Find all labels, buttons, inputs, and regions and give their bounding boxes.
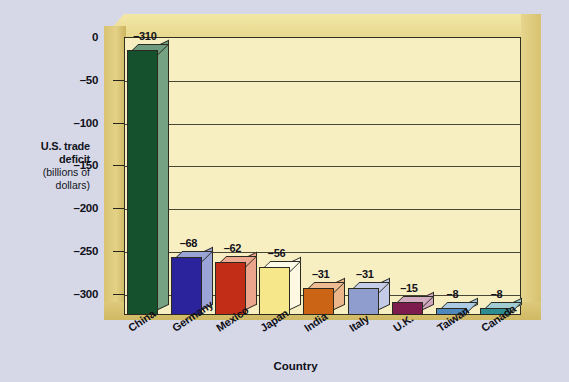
- bar-value-label: –31: [356, 268, 373, 280]
- y-axis-tickmark: [113, 80, 124, 81]
- bar-front-face: [259, 267, 290, 315]
- bar-value-label: –31: [312, 268, 329, 280]
- trade-deficit-bar-chart: U.S. trade deficit (billions of dollars)…: [0, 0, 569, 382]
- bar-value-label: –56: [268, 247, 285, 259]
- bar-front-face: [127, 50, 158, 315]
- bar-front-face: [348, 288, 379, 315]
- bar-value-label: –62: [224, 242, 241, 254]
- y-axis-tick-label: –50: [38, 74, 98, 86]
- y-axis-tickmark: [113, 123, 124, 124]
- y-axis-tick-label: –300: [38, 288, 98, 300]
- bar-value-label: –310: [133, 30, 156, 42]
- y-axis-tickmark: [113, 208, 124, 209]
- y-axis-tickmark: [113, 165, 124, 166]
- bar-side-face: [158, 39, 169, 310]
- bar-china: –310: [127, 50, 158, 315]
- bar-value-label: –8: [447, 288, 459, 300]
- bar-value-label: –15: [400, 282, 417, 294]
- bar-value-label: –8: [491, 288, 503, 300]
- bar-japan: –56: [259, 267, 290, 315]
- x-axis-title-text: Country: [273, 360, 317, 372]
- y-axis-tick-label: –250: [38, 245, 98, 257]
- x-axis-title: Country: [0, 360, 569, 372]
- y-axis-tick-label: 0: [38, 31, 98, 43]
- bar-value-label: –68: [180, 237, 197, 249]
- y-axis-tickmark: [113, 251, 124, 252]
- y-axis-tick-label: –150: [38, 159, 98, 171]
- x-axis-tick-labels: ChinaGermanyMexicoJapanIndiaItalyU.K.Tai…: [104, 318, 569, 382]
- y-axis-tickmark: [113, 294, 124, 295]
- y-axis-tick-labels: –300–250–200–150–100–500: [38, 0, 98, 382]
- y-axis-tick-label: –100: [38, 117, 98, 129]
- y-axis-tick-label: –200: [38, 202, 98, 214]
- bars-container: –310–68–62–56–31–31–15–8–8: [124, 37, 521, 315]
- bar-italy: –31: [348, 288, 379, 315]
